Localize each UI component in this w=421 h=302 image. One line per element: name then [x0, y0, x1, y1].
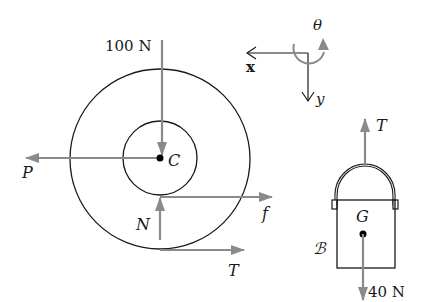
- force-n-label: N: [135, 215, 151, 234]
- bucket: T G ℬ 40 N: [313, 116, 405, 301]
- bucket-body-label: ℬ: [313, 239, 327, 258]
- x-axis-arrow: [247, 47, 308, 59]
- force-f-label: f: [261, 204, 271, 223]
- theta-label: θ: [313, 16, 322, 34]
- spool: 100 N P C N f T: [21, 37, 272, 280]
- bucket-handle: [336, 165, 394, 205]
- bucket-weight-label: 40 N: [368, 283, 405, 301]
- handle-lug-left: [332, 200, 337, 209]
- force-p-label: P: [21, 163, 33, 182]
- center-point-c: [157, 155, 164, 162]
- center-label-c: C: [168, 151, 180, 170]
- bucket-force-t-label: T: [376, 116, 388, 135]
- y-axis-arrow: [302, 53, 314, 101]
- force-100n-label: 100 N: [105, 37, 152, 55]
- free-body-diagram: x y θ 100 N P C N f T: [0, 0, 421, 302]
- theta-rotation-arrow: [293, 38, 329, 64]
- bucket-center-label-g: G: [356, 207, 369, 226]
- x-axis-label: x: [246, 58, 256, 76]
- force-t-label: T: [228, 261, 240, 280]
- y-axis-label: y: [315, 90, 325, 108]
- coordinate-system: x y θ: [246, 16, 329, 108]
